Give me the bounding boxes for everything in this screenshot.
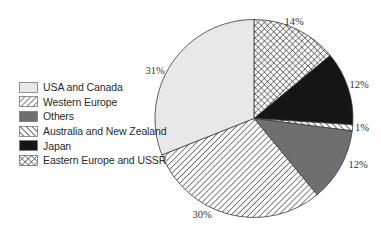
legend-swatch-western-europe xyxy=(19,96,38,107)
legend-label: Others xyxy=(43,110,74,122)
legend-label: Eastern Europe and USSR xyxy=(43,154,166,166)
legend-swatch-japan xyxy=(19,140,38,151)
slice-label-western-europe: 30% xyxy=(192,209,212,220)
legend-item-australia-and-new-zealand: Australia and New Zealand xyxy=(19,124,167,139)
legend-item-usa-and-canada: USA and Canada xyxy=(19,80,167,95)
legend: USA and CanadaWestern EuropeOthersAustra… xyxy=(19,80,167,168)
legend-item-japan: Japan xyxy=(19,138,167,153)
slice-label-eastern-europe-and-ussr: 14% xyxy=(284,16,304,27)
legend-label: Western Europe xyxy=(43,96,117,108)
legend-swatch-usa-and-canada xyxy=(19,82,38,93)
legend-swatch-others xyxy=(19,111,38,122)
legend-item-western-europe: Western Europe xyxy=(19,95,167,110)
legend-swatch-eastern-europe-and-ussr xyxy=(19,155,38,166)
slice-label-others: 12% xyxy=(348,159,368,170)
slice-label-usa-and-canada: 31% xyxy=(145,65,165,76)
legend-label: Japan xyxy=(43,140,71,152)
legend-label: USA and Canada xyxy=(43,81,123,93)
legend-label: Australia and New Zealand xyxy=(43,125,167,137)
legend-item-eastern-europe-and-ussr: Eastern Europe and USSR xyxy=(19,153,167,168)
legend-swatch-australia-and-new-zealand xyxy=(19,126,38,137)
slice-label-australia-and-new-zealand: 1% xyxy=(355,122,369,133)
slice-label-japan: 12% xyxy=(349,79,369,90)
legend-item-others: Others xyxy=(19,109,167,124)
pie-slices xyxy=(155,20,353,218)
